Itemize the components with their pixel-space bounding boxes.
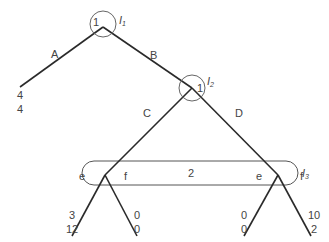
payoff-Ce: 3 12 xyxy=(60,208,84,236)
info-set-3-player-label: 2 xyxy=(188,168,194,179)
branch-D xyxy=(192,88,278,175)
payoff-Ce-player1: 3 xyxy=(60,208,84,222)
branch-left-f-label: f xyxy=(124,171,127,182)
payoff-Df-player2: 2 xyxy=(302,222,326,236)
payoff-A-player2: 4 xyxy=(8,102,32,116)
branch-D-label: D xyxy=(235,108,243,119)
payoff-Cf-player2: 0 xyxy=(125,222,149,236)
branch-A xyxy=(20,27,103,87)
payoff-De-player1: 0 xyxy=(232,208,256,222)
branch-A-label: A xyxy=(51,49,58,60)
node-2-player-label: 1 xyxy=(197,83,203,94)
payoff-A: 4 4 xyxy=(8,88,32,116)
payoff-Df: 10 2 xyxy=(302,208,326,236)
payoff-Df-player1: 10 xyxy=(302,208,326,222)
branch-B xyxy=(103,27,192,88)
branch-C xyxy=(105,88,192,175)
root-info-set-label: I1 xyxy=(119,15,126,29)
root-player-label: 1 xyxy=(93,17,99,28)
payoff-De-player2: 0 xyxy=(232,222,256,236)
branch-left-e-label: e xyxy=(79,171,85,182)
payoff-De: 0 0 xyxy=(232,208,256,236)
payoff-Ce-player2: 12 xyxy=(60,222,84,236)
game-tree-canvas xyxy=(0,0,329,242)
payoff-Cf-player1: 0 xyxy=(125,208,149,222)
node-2-info-set-label: I2 xyxy=(207,76,214,90)
branch-C-label: C xyxy=(143,108,151,119)
payoff-Cf: 0 0 xyxy=(125,208,149,236)
branch-B-label: B xyxy=(150,50,157,61)
branch-right-f-label: f xyxy=(300,171,303,182)
payoff-A-player1: 4 xyxy=(8,88,32,102)
branch-right-e-label: e xyxy=(256,171,262,182)
